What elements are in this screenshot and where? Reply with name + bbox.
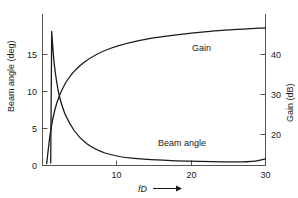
right-axis-ticks (261, 55, 266, 135)
left-tick-label-15: 15 (27, 50, 37, 60)
right-axis-title: Gain (dB) (285, 83, 295, 122)
left-tick-label-5: 5 (32, 124, 37, 134)
chart-canvas: 0 5 10 15 20 30 40 10 20 30 Beam angle (… (0, 0, 298, 198)
x-tick-label-30: 30 (260, 170, 270, 180)
series-label-gain: Gain (192, 43, 211, 53)
x-tick-label-20: 20 (186, 170, 196, 180)
right-tick-label-20: 20 (271, 130, 281, 140)
x-tick-label-10: 10 (111, 170, 121, 180)
x-axis-arrow-icon (176, 186, 182, 192)
left-tick-label-10: 10 (27, 87, 37, 97)
curve-gain (47, 28, 266, 164)
left-tick-label-0: 0 (32, 161, 37, 171)
right-tick-label-30: 30 (271, 90, 281, 100)
left-axis-ticks (43, 55, 48, 166)
right-tick-label-40: 40 (271, 50, 281, 60)
left-axis-title: Beam angle (deg) (6, 40, 16, 112)
x-axis-title: fD (138, 184, 148, 194)
series-label-beam-angle: Beam angle (158, 138, 206, 148)
chart-figure: 0 5 10 15 20 30 40 10 20 30 Beam angle (… (0, 0, 298, 198)
